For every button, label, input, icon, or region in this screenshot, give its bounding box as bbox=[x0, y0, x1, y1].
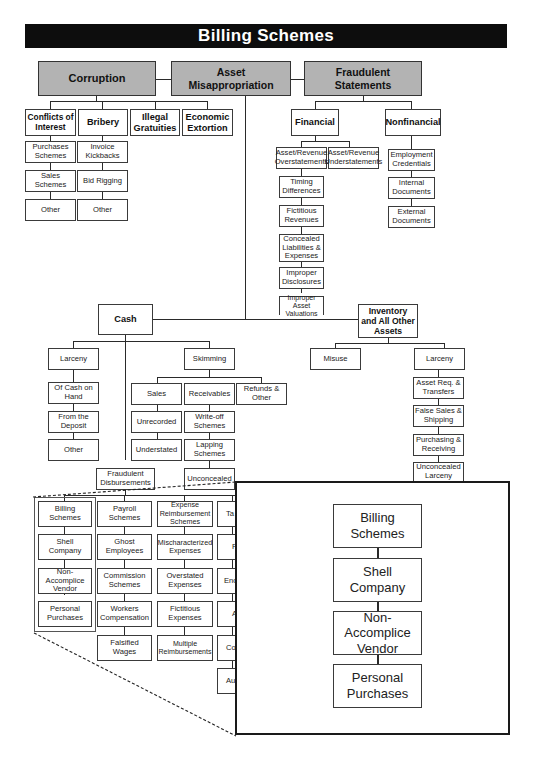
connector bbox=[377, 533, 379, 683]
zoom-billing-schemes: Billing Schemes bbox=[333, 504, 422, 548]
zoom-shell-company: Shell Company bbox=[333, 558, 422, 602]
zoom-personal-purchases: Personal Purchases bbox=[333, 664, 422, 708]
zoom-panel: Billing Schemes Shell Company Non-Accomp… bbox=[235, 481, 510, 735]
zoom-non-accomplice-vendor: Non-Accomplice Vendor bbox=[333, 611, 422, 655]
